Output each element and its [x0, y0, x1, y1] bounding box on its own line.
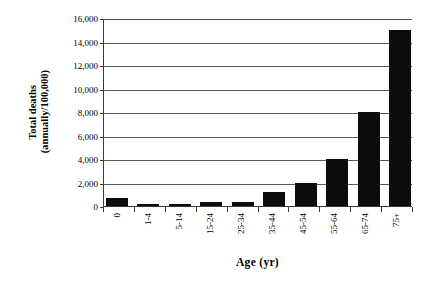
y-axis-tick-label: 12,000	[73, 62, 98, 71]
y-axis-tick-label: 4,000	[78, 156, 98, 165]
y-axis-tick-label: 0	[94, 203, 99, 212]
x-axis-tick-marks	[103, 207, 412, 212]
y-axis-tick-label: 10,000	[73, 85, 98, 94]
x-axis-tick-label: 15-24	[206, 213, 215, 234]
plot-area	[103, 19, 412, 207]
y-axis-tick-label: 6,000	[78, 132, 98, 141]
y-axis-tick-label: 2,000	[78, 179, 98, 188]
bar	[358, 112, 380, 206]
bar	[263, 192, 285, 206]
x-axis-tick-mark	[196, 207, 197, 212]
x-axis-tick-mark	[319, 207, 320, 212]
x-axis-tick-mark	[350, 207, 351, 212]
x-axis-tick-mark	[258, 207, 259, 212]
y-axis-tick-labels: 02,0004,0006,0008,00010,00012,00014,0001…	[52, 13, 98, 207]
x-axis-tick-label: 75+	[392, 213, 401, 227]
x-axis-tick-label: 65-74	[361, 213, 370, 234]
y-axis-tick-label: 8,000	[78, 109, 98, 118]
y-axis-title-line-2: (annually/100,000)	[40, 70, 51, 153]
bar	[169, 204, 191, 206]
bar-chart: Total deaths (annually/100,000) 02,0004,…	[0, 0, 425, 281]
x-axis-tick-mark	[227, 207, 228, 212]
x-axis-tick-label: 5-14	[175, 213, 184, 230]
x-axis-tick-label: 35-44	[268, 213, 277, 234]
y-axis-tick-label: 14,000	[73, 38, 98, 47]
x-axis-tick-label: 55-64	[330, 213, 339, 234]
bar	[232, 202, 254, 206]
bar	[106, 198, 128, 206]
bar	[200, 202, 222, 206]
bar	[326, 159, 348, 206]
y-axis-tick-label: 16,000	[73, 15, 98, 24]
bar	[295, 183, 317, 207]
x-axis-tick-mark	[288, 207, 289, 212]
x-axis-tick-mark	[412, 207, 413, 212]
x-axis-tick-mark	[165, 207, 166, 212]
x-axis-tick-label: 0	[113, 213, 122, 218]
x-axis-title: Age (yr)	[103, 256, 412, 268]
bar	[137, 204, 159, 206]
bar	[389, 30, 411, 206]
x-axis-tick-mark	[134, 207, 135, 212]
x-axis-tick-labels: 01-45-1415-2425-3435-4445-5455-6465-7475…	[103, 213, 412, 253]
y-axis-title-line-1: Total deaths	[28, 85, 39, 140]
x-axis-tick-label: 1-4	[144, 213, 153, 225]
x-axis-tick-label: 25-34	[237, 213, 246, 234]
bar-series	[104, 19, 412, 206]
x-axis-tick-mark	[381, 207, 382, 212]
x-axis-tick-mark	[103, 207, 104, 212]
x-axis-tick-label: 45-54	[299, 213, 308, 234]
